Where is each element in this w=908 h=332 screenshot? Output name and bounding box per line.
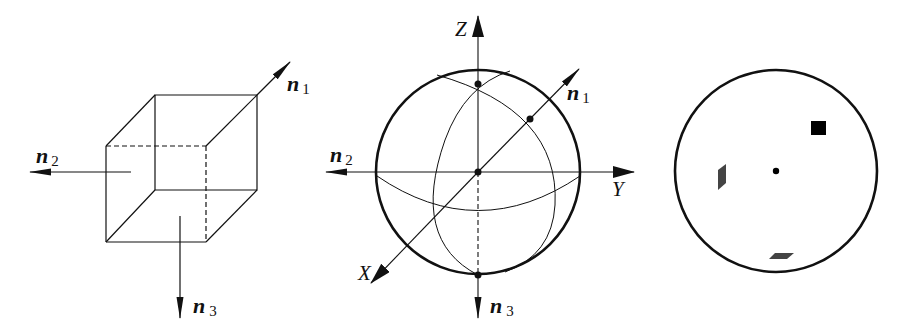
sphere-axis-label-x: X [357, 261, 372, 285]
cube-back-face [155, 95, 257, 190]
projection-pole-square [811, 121, 826, 135]
cube-label-n1: n1 [287, 71, 310, 97]
cube-edge-top-right [206, 95, 257, 146]
sphere-pole-center [475, 169, 482, 176]
cube-panel [30, 62, 290, 318]
figure-canvas: n1 n2 n3 Z Y X n1 n2 n3 [0, 0, 908, 332]
sphere-pole-n1 [527, 116, 534, 123]
cube-edge-bottom-left [106, 190, 155, 242]
cube-edge-top-left [106, 95, 155, 146]
sphere-pole-bottom [475, 272, 482, 279]
sphere-meridian-right [437, 75, 555, 272]
sphere-axis-x [371, 172, 478, 283]
sphere-poles [475, 81, 534, 279]
cube-labels: n1 n2 n3 [36, 71, 310, 319]
sphere-label-n2: n2 [330, 142, 353, 168]
sphere-axis-label-y: Y [612, 177, 626, 201]
cube-label-n3: n3 [193, 293, 217, 319]
cube-edge-bottom-right [206, 190, 257, 242]
sphere-axis-label-z: Z [455, 17, 467, 41]
sphere-pole-top [475, 81, 482, 88]
sphere-meridian-front [433, 71, 510, 275]
sphere-label-n3: n3 [490, 293, 514, 319]
cube-label-n2: n2 [36, 143, 59, 169]
projection-pole-center-dot [773, 168, 779, 174]
projection-pole-parallelogram-bottom [769, 253, 794, 259]
sphere-label-n1: n1 [567, 80, 590, 106]
cube-normal-n1-arrow [257, 62, 290, 95]
projection-pole-parallelogram-left [718, 164, 726, 190]
projection-panel [675, 70, 877, 272]
